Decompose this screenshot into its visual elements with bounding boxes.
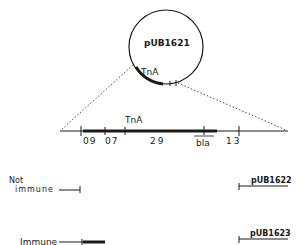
segment-13: 13 (226, 136, 241, 146)
expansion-line-left (61, 65, 133, 130)
segment-07: 07 (105, 136, 118, 146)
segment-29: 29 (150, 136, 165, 146)
map-transposon-label: TnA (125, 115, 142, 125)
pub1622-label: pUB1622 (251, 176, 292, 186)
segment-09: 09 (83, 136, 96, 146)
immune-label: Immune (20, 237, 57, 245)
segment-bla: bla (196, 138, 210, 148)
not-immune-label-line2: immune (15, 185, 54, 195)
pub1623-label: pUB1623 (250, 229, 291, 239)
circle-transposon-label: TnA (141, 67, 158, 77)
plasmid-diagram (0, 0, 304, 245)
expansion-line-right (178, 83, 286, 130)
plasmid-name: pUB1621 (144, 38, 190, 48)
